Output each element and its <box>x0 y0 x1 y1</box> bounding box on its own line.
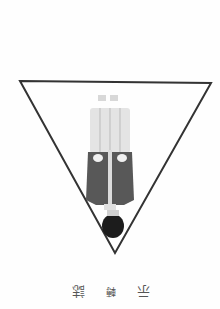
caption-char-3: 誌 <box>70 284 85 303</box>
figure <box>86 95 134 238</box>
caption-char-2: 轉 <box>104 286 116 301</box>
triangle-illustration <box>0 0 220 309</box>
caption-text: 示 轉 誌 <box>70 282 150 304</box>
cover-page: 示 轉 誌 <box>0 0 220 309</box>
caption-char-1: 示 <box>135 284 150 303</box>
